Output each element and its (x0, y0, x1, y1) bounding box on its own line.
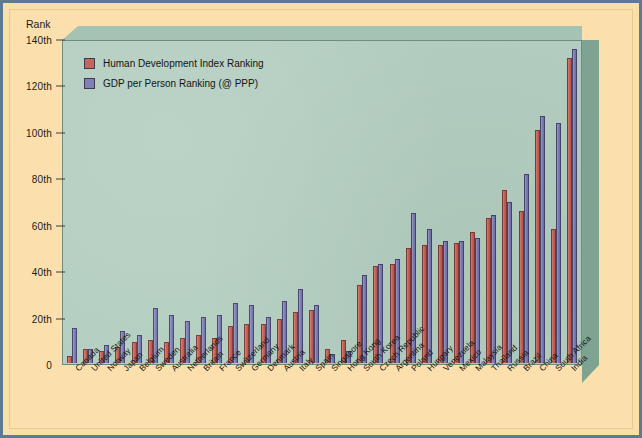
bar-group (406, 42, 416, 363)
plot-top-face-3d (62, 26, 582, 40)
x-axis-labels: CanadaUnited StatesNorwayJapanBelgiumSwe… (62, 366, 582, 436)
bar-gdp (556, 123, 561, 363)
bar-gdp (72, 328, 77, 363)
chart-page: Rank 020th40th60th80th100th120th140th Hu… (0, 0, 642, 438)
y-tick-mark (56, 132, 65, 133)
bar-group (519, 42, 529, 363)
bar-group (341, 42, 351, 363)
y-tick-label: 120th (26, 81, 52, 92)
bar-group (454, 42, 464, 363)
y-tick-label: 140th (26, 35, 52, 46)
y-tick-label: 80th (32, 174, 52, 185)
y-tick-mark (56, 272, 65, 273)
bar-group (390, 42, 400, 363)
y-tick-mark (56, 179, 65, 180)
y-axis: Rank 020th40th60th80th100th120th140th (0, 0, 62, 438)
y-tick-mark (56, 318, 65, 319)
bar-group (567, 42, 577, 363)
bar-group (551, 42, 561, 363)
y-axis-title: Rank (26, 18, 51, 30)
legend-label: GDP per Person Ranking (@ PPP) (103, 78, 258, 89)
bar-group (502, 42, 512, 363)
y-tick-label: 20th (32, 313, 52, 324)
bar-group (470, 42, 480, 363)
y-tick-label: 0 (46, 360, 52, 371)
legend-swatch-icon (84, 58, 95, 69)
plot-right-face-3d (582, 40, 599, 383)
bar-group (325, 42, 335, 363)
bar-gdp (540, 116, 545, 363)
bar-gdp (572, 49, 577, 363)
legend-item: Human Development Index Ranking (84, 58, 264, 69)
bar-gdp (427, 229, 432, 363)
bar-group (486, 42, 496, 363)
y-tick-label: 40th (32, 267, 52, 278)
legend-label: Human Development Index Ranking (103, 58, 264, 69)
legend-item: GDP per Person Ranking (@ PPP) (84, 78, 264, 89)
bar-gdp (491, 215, 496, 363)
y-tick-mark (56, 225, 65, 226)
bar-group (535, 42, 545, 363)
bar-gdp (314, 305, 319, 363)
bar-group (373, 42, 383, 363)
bar-gdp (507, 202, 512, 364)
bar-group (67, 42, 77, 363)
legend-swatch-icon (84, 78, 95, 89)
y-tick-mark (56, 40, 65, 41)
bar-group (277, 42, 287, 363)
y-tick-mark (56, 86, 65, 87)
bar-group (422, 42, 432, 363)
y-tick-label: 100th (26, 127, 52, 138)
chart-legend: Human Development Index RankingGDP per P… (84, 58, 264, 98)
bar-group (293, 42, 303, 363)
bar-group (357, 42, 367, 363)
plot-wrapper: Rank 020th40th60th80th100th120th140th Hu… (0, 0, 642, 438)
bar-group (438, 42, 448, 363)
bar-group (309, 42, 319, 363)
bar-gdp (524, 174, 529, 363)
y-tick-label: 60th (32, 220, 52, 231)
